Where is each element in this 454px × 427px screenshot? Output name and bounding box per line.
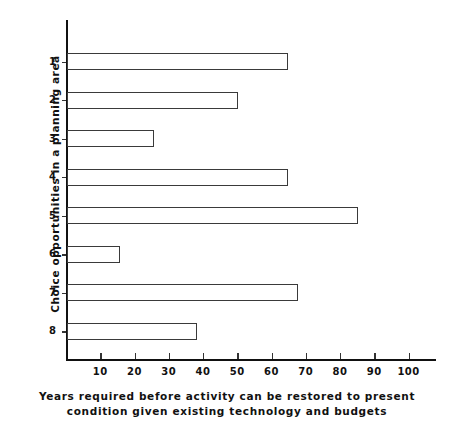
x-axis-tick-label-50: 50 [220, 366, 254, 377]
y-axis-tick-label-3: 3 [34, 133, 56, 144]
y-axis-tick [62, 62, 66, 63]
x-axis-tick [203, 353, 204, 359]
x-axis-tick [374, 353, 375, 359]
chart-caption: Years required before activity can be re… [14, 389, 440, 419]
y-axis-tick-label-5: 5 [34, 210, 56, 221]
x-axis-tick-label-10: 10 [83, 366, 117, 377]
y-axis-tick-label-8: 8 [34, 325, 56, 336]
x-axis-tick [169, 353, 170, 359]
y-axis-tick [62, 254, 66, 255]
x-axis-tick [237, 353, 238, 359]
x-axis-tick-label-30: 30 [152, 366, 186, 377]
bar-category-8 [67, 323, 197, 340]
bar-chart-figure: Choice opportunities in a planning area … [0, 0, 454, 427]
y-axis-tick [62, 139, 66, 140]
bar-category-3 [67, 130, 154, 147]
x-axis-tick-label-100: 100 [392, 366, 426, 377]
bar-category-5 [67, 207, 358, 224]
y-axis-tick [62, 177, 66, 178]
bar-category-1 [67, 53, 288, 70]
bar-category-2 [67, 92, 238, 109]
x-axis-tick [272, 353, 273, 359]
x-axis-tick-label-40: 40 [186, 366, 220, 377]
y-axis-tick-label-4: 4 [34, 171, 56, 182]
x-axis-tick [306, 353, 307, 359]
y-axis-tick-label-1: 1 [34, 56, 56, 67]
y-axis-tick-label-6: 6 [34, 248, 56, 259]
caption-line-2: condition given existing technology and … [14, 404, 440, 419]
x-axis-tick-label-20: 20 [118, 366, 152, 377]
bar-category-4 [67, 169, 288, 186]
x-axis-tick-label-90: 90 [357, 366, 391, 377]
y-axis-line [66, 20, 68, 361]
x-axis-tick [409, 353, 410, 359]
bar-category-6 [67, 246, 120, 263]
y-axis-tick [62, 216, 66, 217]
bar-category-7 [67, 284, 298, 301]
y-axis-tick [62, 100, 66, 101]
plot-area: 12345678102030405060708090100 [66, 20, 436, 361]
x-axis-tick [135, 353, 136, 359]
caption-line-1: Years required before activity can be re… [14, 389, 440, 404]
y-axis-tick [62, 331, 66, 332]
x-axis-tick [100, 353, 101, 359]
x-axis-tick-label-70: 70 [289, 366, 323, 377]
x-axis-tick-label-60: 60 [255, 366, 289, 377]
x-axis-line [66, 359, 436, 361]
y-axis-tick-label-7: 7 [34, 287, 56, 298]
x-axis-tick-label-80: 80 [323, 366, 357, 377]
x-axis-tick [340, 353, 341, 359]
y-axis-tick [62, 293, 66, 294]
y-axis-tick-label-2: 2 [34, 94, 56, 105]
